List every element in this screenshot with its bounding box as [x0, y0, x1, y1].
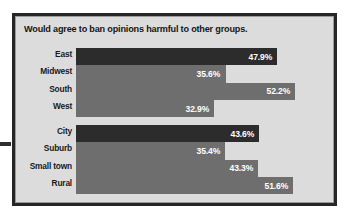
bar-value-south: 52.2% [267, 86, 296, 96]
bar-south: 52.2% [76, 83, 295, 100]
category-label-east: East [19, 49, 72, 59]
category-label-rural: Rural [19, 178, 72, 188]
chart-title: Would agree to ban opinions harmful to o… [24, 23, 247, 34]
bar-rural: 51.6% [76, 177, 293, 194]
category-label-midwest: Midwest [19, 66, 72, 76]
bar-group-region: East 47.9% Midwest 35.6% South 52.2% [15, 48, 334, 117]
bar-value-small-town: 43.3% [229, 163, 258, 173]
bar-track-west: 32.9% [76, 100, 328, 117]
category-label-suburb: Suburb [19, 143, 72, 153]
bar-value-suburb: 35.4% [196, 146, 225, 156]
table-row: West 32.9% [15, 100, 334, 117]
bar-value-rural: 51.6% [264, 181, 293, 191]
page-margin-mark [0, 142, 11, 146]
category-label-south: South [19, 84, 72, 94]
bar-small-town: 43.3% [76, 160, 258, 177]
table-row: Rural 51.6% [15, 177, 334, 194]
category-label-city: City [19, 126, 72, 136]
table-row: Midwest 35.6% [15, 65, 334, 82]
bar-track-rural: 51.6% [76, 177, 328, 194]
table-row: East 47.9% [15, 48, 334, 65]
bar-city: 43.6% [76, 125, 259, 142]
bar-track-small-town: 43.3% [76, 160, 328, 177]
table-row: Small town 43.3% [15, 160, 334, 177]
table-row: Suburb 35.4% [15, 142, 334, 159]
bar-west: 32.9% [76, 100, 214, 117]
bar-track-suburb: 35.4% [76, 142, 328, 159]
bar-midwest: 35.6% [76, 65, 226, 82]
bar-value-city: 43.6% [231, 129, 260, 139]
table-row: South 52.2% [15, 83, 334, 100]
bar-suburb: 35.4% [76, 142, 225, 159]
bar-track-midwest: 35.6% [76, 65, 328, 82]
bar-value-east: 47.9% [249, 52, 278, 62]
bar-east: 47.9% [76, 48, 277, 65]
bar-value-west: 32.9% [186, 104, 215, 114]
category-label-small-town: Small town [19, 161, 72, 171]
table-row: City 43.6% [15, 125, 334, 142]
chart-panel: Would agree to ban opinions harmful to o… [12, 13, 337, 206]
bar-track-east: 47.9% [76, 48, 328, 65]
bar-value-midwest: 35.6% [197, 69, 226, 79]
bar-group-community: City 43.6% Suburb 35.4% Small town 43.3% [15, 125, 334, 194]
category-label-west: West [19, 101, 72, 111]
bar-track-city: 43.6% [76, 125, 328, 142]
bar-track-south: 52.2% [76, 83, 328, 100]
